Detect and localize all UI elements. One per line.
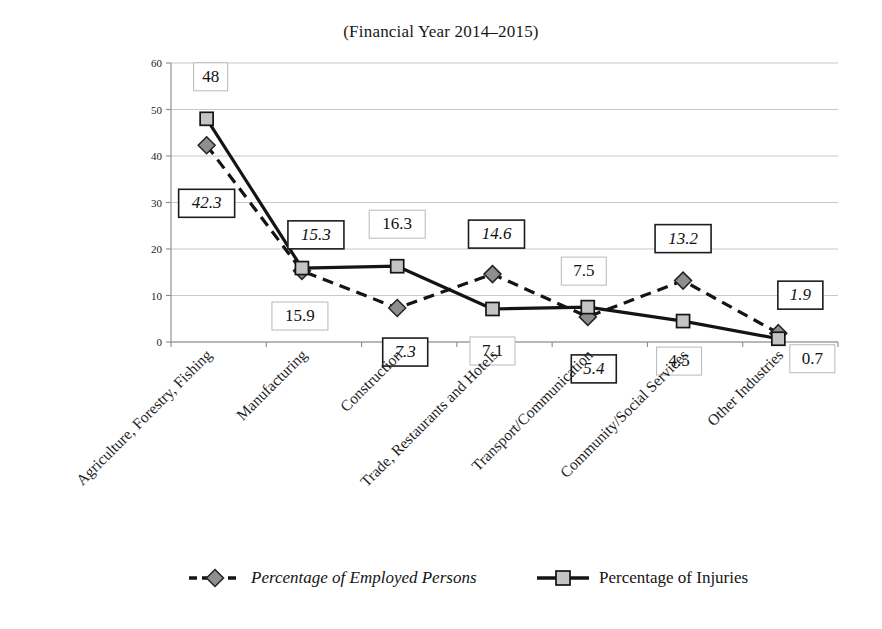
data-label-value: 15.3 [301,225,331,244]
legend-marker-diamond [207,570,224,587]
x-axis-category-label: Manufacturing [233,346,310,423]
y-axis-tick-label: 20 [151,243,163,255]
data-label-value: 14.6 [482,224,512,243]
data-point-marker-square [772,332,785,345]
chart-plot: 0102030405060 42.315.37.314.65.413.21.94… [0,0,882,629]
chart-container: (Financial Year 2014–2015) 0102030405060… [0,0,882,629]
data-label-value: 42.3 [192,193,222,212]
y-axis-tick-label: 0 [157,336,163,348]
legend-label: Percentage of Injuries [599,568,748,587]
axis-frame [166,63,838,347]
data-point-marker-square [295,262,308,275]
data-value-labels: 42.315.37.314.65.413.21.94815.916.37.17.… [179,63,835,383]
gridlines-group [171,63,838,342]
data-label-value: 0.7 [802,349,824,368]
data-point-marker-square [677,315,690,328]
y-axis-tick-label: 30 [151,197,163,209]
data-label-value: 1.9 [790,285,812,304]
data-point-marker-square [391,260,404,273]
x-axis-category-label: Agriculture, Forestry, Fishing [73,346,215,488]
data-label-value: 7.5 [573,261,594,280]
chart-legend: Percentage of Employed PersonsPercentage… [189,568,748,587]
data-label-value: 48 [202,67,219,86]
x-axis-category-labels: Agriculture, Forestry, FishingManufactur… [73,346,787,490]
data-point-marker-square [486,302,499,315]
x-axis-category-label: Construction [337,346,406,415]
x-axis-category-label: Other Industries [704,346,787,429]
legend-marker-square [556,571,570,585]
y-axis-tick-label: 10 [151,290,163,302]
data-point-marker-diamond [675,272,692,289]
data-point-marker-square [200,112,213,125]
data-point-marker-square [581,301,594,314]
data-label-value: 13.2 [668,229,698,248]
y-axis-tick-label: 50 [151,104,163,116]
y-axis-tick-labels: 0102030405060 [151,57,163,348]
y-axis-tick-label: 60 [151,57,163,69]
y-axis-tick-label: 40 [151,150,163,162]
data-point-marker-diamond [484,266,501,283]
data-label-value: 15.9 [285,306,315,325]
data-label-value: 16.3 [382,214,412,233]
legend-label: Percentage of Employed Persons [250,568,477,587]
data-point-marker-diamond [389,300,406,317]
